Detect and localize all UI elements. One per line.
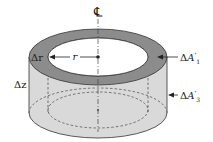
area-top-A: A	[186, 52, 194, 63]
area-side-delta: Δ	[180, 90, 187, 101]
delta-z-label: Δz	[14, 79, 27, 90]
area-side-label: ΔA′3	[180, 89, 200, 103]
delta-r-text: Δr	[31, 52, 43, 63]
center-point-bottom	[97, 109, 99, 111]
centerline-symbol: ℄	[93, 4, 103, 19]
area-top-delta: Δ	[180, 52, 187, 63]
delta-r-label: Δr	[31, 52, 43, 63]
annular-shell-diagram: ℄ r Δr Δz ΔA′1 ΔA′3	[0, 0, 213, 142]
area-side-A: A	[186, 90, 194, 101]
area-top-sub: 1	[196, 58, 200, 65]
area-side-arrowhead	[168, 93, 174, 98]
area-top-label: ΔA′1	[180, 51, 200, 65]
area-side-sub: 3	[196, 96, 200, 103]
